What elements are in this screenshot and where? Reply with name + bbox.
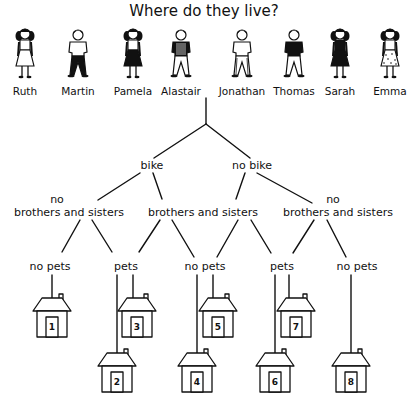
- house-3: 3: [118, 275, 156, 337]
- branch-line: [217, 220, 238, 257]
- node-nobike-no-siblings: brothers and sisters: [283, 206, 393, 219]
- person-name-label: Sarah: [325, 85, 356, 97]
- branch-line: [293, 220, 314, 253]
- person-emma: Emma: [373, 29, 407, 97]
- person-pamela: Pamela: [114, 29, 152, 97]
- house-number: 4: [194, 377, 200, 387]
- house-7: 7: [277, 275, 315, 337]
- house-number: 1: [49, 322, 55, 332]
- branch-line: [206, 124, 250, 158]
- girl-figure-icon: [381, 29, 400, 78]
- node-no-bike: no bike: [232, 159, 272, 172]
- boy-figure-icon: [171, 30, 192, 77]
- person-thomas: Thomas: [272, 30, 315, 97]
- branch-line: [139, 220, 160, 252]
- diagram-canvas: Where do they live? RuthMartinPamelaAlas…: [0, 0, 410, 401]
- tree-branches: bikeno bikenobrothers and sistersbrother…: [14, 98, 393, 273]
- person-name-label: Pamela: [114, 85, 152, 97]
- branch-line: [327, 220, 346, 257]
- girl-figure-icon: [331, 29, 350, 78]
- branch-line: [257, 173, 312, 203]
- branch-line: [251, 220, 271, 253]
- houses-row: 12345678: [33, 275, 370, 392]
- branch-line: [98, 173, 140, 200]
- person-name-label: Martin: [61, 85, 95, 97]
- house-number: 6: [272, 377, 278, 387]
- node-bike-no-siblings: brothers and sisters: [14, 206, 124, 219]
- boy-figure-icon: [68, 30, 89, 77]
- node-prefix-no: no: [50, 193, 64, 206]
- house-number: 8: [348, 377, 354, 387]
- person-name-label: Thomas: [272, 85, 315, 97]
- branch-line: [62, 220, 80, 252]
- house-number: 3: [134, 322, 140, 332]
- node-pets-2: pets: [270, 260, 294, 273]
- branch-line: [154, 124, 206, 158]
- node-prefix-no: no: [326, 193, 340, 206]
- person-alastair: Alastair: [161, 30, 201, 97]
- girl-figure-icon: [16, 29, 35, 78]
- person-ruth: Ruth: [13, 29, 37, 97]
- node-pets-1: pets: [114, 260, 138, 273]
- decision-tree-diagram: Where do they live? RuthMartinPamelaAlas…: [0, 0, 410, 401]
- boy-figure-icon: [284, 30, 305, 77]
- node-shared-siblings: brothers and sisters: [148, 206, 258, 219]
- boy-figure-icon: [232, 30, 253, 77]
- girl-figure-icon: [124, 29, 143, 78]
- diagram-title: Where do they live?: [129, 2, 279, 20]
- house-number: 2: [114, 377, 120, 387]
- person-sarah: Sarah: [325, 29, 356, 97]
- house-1: 1: [33, 275, 71, 337]
- person-name-label: Alastair: [161, 85, 201, 97]
- person-jonathan: Jonathan: [218, 30, 265, 97]
- people-row: RuthMartinPamelaAlastairJonathanThomasSa…: [13, 29, 407, 97]
- branch-line: [236, 173, 245, 199]
- house-8: 8: [332, 275, 370, 392]
- branch-line: [172, 220, 194, 257]
- person-name-label: Jonathan: [218, 85, 265, 97]
- node-no-pets-3: no pets: [337, 260, 378, 273]
- node-bike: bike: [141, 159, 164, 172]
- branch-line: [92, 220, 112, 252]
- node-no-pets-1: no pets: [30, 260, 71, 273]
- house-number: 7: [293, 322, 299, 332]
- branch-line: [153, 173, 162, 199]
- person-name-label: Ruth: [13, 85, 37, 97]
- person-martin: Martin: [61, 30, 95, 97]
- house-number: 5: [215, 322, 221, 332]
- house-5: 5: [199, 275, 237, 337]
- person-name-label: Emma: [373, 85, 407, 97]
- node-no-pets-2: no pets: [185, 260, 226, 273]
